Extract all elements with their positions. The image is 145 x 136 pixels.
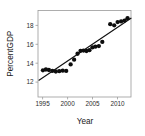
data-point <box>97 44 101 48</box>
data-point <box>64 69 68 73</box>
y-tick-label-14: 14 <box>26 60 34 67</box>
y-tick-label-18: 18 <box>26 22 34 29</box>
x-tick-label-1995: 1995 <box>35 100 50 107</box>
data-point <box>112 23 116 27</box>
data-point <box>72 58 76 62</box>
data-point <box>69 62 73 66</box>
x-tick-label-2000: 2000 <box>60 100 75 107</box>
data-point <box>125 16 129 20</box>
data-point <box>108 22 112 26</box>
x-axis-tick-labels: 1995 2000 2005 2010 <box>35 100 125 107</box>
y-tick-label-12: 12 <box>26 78 34 85</box>
data-point <box>100 40 104 44</box>
chart-figure: 18 16 14 12 1995 2000 2005 2010 Year Per… <box>0 0 145 136</box>
y-tick-label-16: 16 <box>26 41 34 48</box>
x-tick-label-2005: 2005 <box>85 100 100 107</box>
y-axis-title: PercentGDP <box>6 30 15 76</box>
y-axis-tick-labels: 18 16 14 12 <box>26 22 34 86</box>
x-axis-title: Year <box>77 117 94 126</box>
x-tick-label-2010: 2010 <box>110 100 125 107</box>
data-points-group <box>41 16 130 74</box>
scatter-plot: 18 16 14 12 1995 2000 2005 2010 Year Per… <box>0 0 145 136</box>
